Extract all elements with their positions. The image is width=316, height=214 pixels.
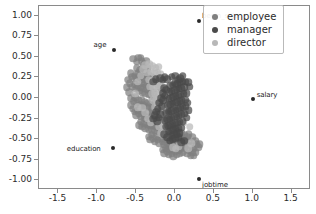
scatter-point-manager	[183, 114, 191, 122]
variable-label-education: education	[67, 145, 101, 153]
variable-point-jobtime	[197, 177, 201, 181]
x-tick-mark	[291, 189, 292, 193]
scatter-plot-figure: 1.000.750.500.250.00-0.25-0.50-0.75-1.00…	[0, 0, 316, 214]
scatter-point-director	[132, 90, 140, 98]
x-tick-label: 1.5	[283, 193, 297, 203]
x-tick-mark	[174, 189, 175, 193]
legend-label: employee	[227, 11, 276, 22]
legend-marker-icon	[212, 27, 218, 33]
y-tick-label: -0.75	[9, 154, 32, 164]
x-tick-label: -1.5	[49, 193, 67, 203]
scatter-point-manager	[160, 130, 168, 138]
y-tick-label: 0.75	[12, 30, 32, 40]
y-tick-label: 0.50	[12, 51, 32, 61]
variable-point-education	[111, 146, 115, 150]
x-tick-mark	[57, 189, 58, 193]
y-tick-label: 0.00	[12, 92, 32, 102]
scatter-point-director	[169, 144, 177, 152]
variable-point-age	[112, 48, 116, 52]
y-tick-label: 0.25	[12, 71, 32, 81]
y-tick-label: -0.25	[9, 113, 32, 123]
x-tick-label: -0.5	[126, 193, 144, 203]
y-tick-label: -1.00	[9, 174, 32, 184]
variable-point-begin_salary	[197, 19, 201, 23]
y-tick-label: -0.50	[9, 133, 32, 143]
x-tick-label: 1.0	[245, 193, 259, 203]
y-tick-label: 1.00	[12, 10, 32, 20]
legend-marker-icon	[212, 14, 218, 20]
scatter-point-manager	[185, 107, 193, 115]
legend-item-manager[interactable]: manager	[209, 23, 276, 36]
scatter-point-manager	[174, 76, 182, 84]
scatter-point-director	[139, 104, 147, 112]
scatter-point-manager	[149, 78, 157, 86]
x-tick-label: 0.0	[167, 193, 181, 203]
x-tick-label: -1.0	[88, 193, 106, 203]
x-tick-label: 0.5	[206, 193, 220, 203]
variable-label-salary: salary	[257, 91, 278, 99]
scatter-point-employee	[125, 76, 133, 84]
legend-label: director	[227, 37, 266, 48]
x-tick-mark	[135, 189, 136, 193]
variable-label-age: age	[94, 41, 107, 49]
legend[interactable]: employeemanagerdirector	[203, 5, 284, 54]
x-tick-mark	[252, 189, 253, 193]
legend-item-employee[interactable]: employee	[209, 10, 276, 23]
variable-label-jobtime: jobtime	[202, 181, 228, 189]
scatter-point-manager	[184, 99, 192, 107]
scatter-point-director	[188, 139, 196, 147]
x-tick-mark	[96, 189, 97, 193]
scatter-point-employee	[195, 144, 203, 152]
scatter-point-manager	[149, 115, 157, 123]
scatter-point-manager	[177, 139, 185, 147]
legend-label: manager	[227, 24, 272, 35]
legend-item-director[interactable]: director	[209, 36, 276, 49]
scatter-point-manager	[186, 83, 194, 91]
scatter-point-director	[186, 123, 194, 131]
legend-marker-icon	[212, 40, 218, 46]
variable-point-salary	[251, 97, 255, 101]
scatter-point-director	[134, 78, 142, 86]
x-tick-mark	[213, 189, 214, 193]
